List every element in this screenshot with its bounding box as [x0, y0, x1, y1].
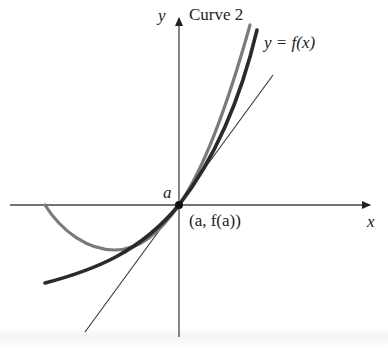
f-curve-label: y = f(x)	[264, 34, 315, 51]
tangency-point	[175, 201, 183, 209]
point-label: (a, f(a))	[189, 212, 241, 229]
diagram-canvas	[0, 0, 388, 348]
curve2-label: Curve 2	[189, 6, 243, 23]
x-axis-label: x	[367, 213, 375, 230]
a-tick-label: a	[163, 184, 172, 201]
tangent-diagram: y Curve 2 y = f(x) a (a, f(a)) x	[0, 0, 388, 348]
y-axis-label: y	[158, 7, 166, 24]
f-curve	[45, 30, 257, 283]
